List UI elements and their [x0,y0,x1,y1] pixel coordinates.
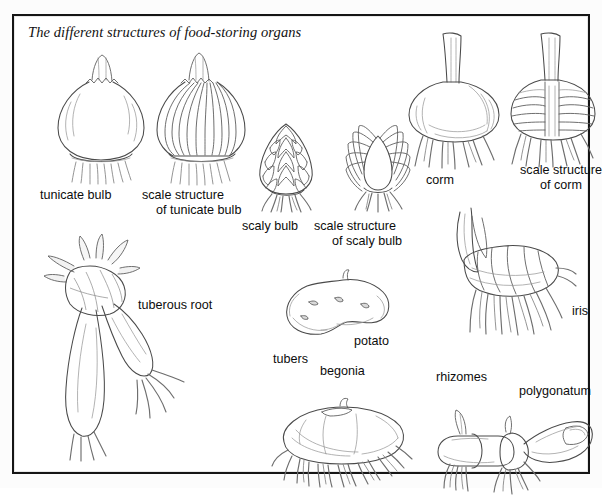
label-line-1: scale structure [520,163,602,177]
label-scaly-bulb: scaly bulb [242,219,298,234]
figure-scale-structure-corm [501,30,607,170]
label-tubers: tubers [273,352,308,367]
figure-iris [438,206,588,336]
label-polygonatum: polygonatum [519,384,591,399]
figure-tuberous-root [34,228,214,463]
label-line-2: of corm [540,178,582,192]
figure-polygonatum [432,404,602,496]
label-line-1: scale structure [314,219,396,233]
label-corm: corm [426,173,454,188]
label-potato: potato [354,334,389,349]
label-iris: iris [572,304,588,319]
illustration-plate: The different structures of food-storing… [12,14,590,474]
label-line-2: of scaly bulb [332,234,402,249]
label-rhizomes: rhizomes [436,370,487,385]
figure-scaly-bulb [236,118,336,213]
label-line-1: scale structure [142,188,224,202]
label-begonia: begonia [320,364,365,379]
label-scale-structure-scaly-bulb: scale structure of scaly bulb [314,219,424,248]
label-scale-structure-corm: scale structure of corm [511,163,607,192]
label-tunicate-bulb: tunicate bulb [40,188,111,203]
label-tuberous-root: tuberous root [138,298,212,313]
plate-title: The different structures of food-storing… [28,24,301,41]
figure-begonia [266,394,421,489]
label-line-2: of tunicate bulb [156,203,241,218]
